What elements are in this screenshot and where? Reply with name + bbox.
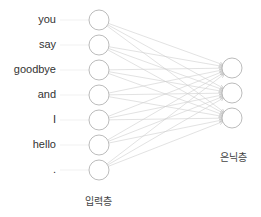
input-node — [89, 110, 109, 130]
connection-edge — [108, 73, 224, 140]
connection-edge — [109, 47, 222, 67]
input-node — [89, 85, 109, 105]
input-node — [89, 160, 109, 180]
word-guide-lines — [60, 20, 89, 170]
input-node — [89, 10, 109, 30]
input-node — [89, 135, 109, 155]
input-word-label: goodbye — [14, 63, 56, 75]
input-word-label: say — [39, 38, 56, 50]
connection-edge — [108, 23, 222, 64]
connection-edge — [108, 98, 224, 165]
connection-edge — [109, 70, 222, 93]
connection-edge — [108, 122, 222, 167]
hidden-node — [222, 108, 242, 128]
input-node — [89, 35, 109, 55]
hidden-node — [222, 83, 242, 103]
hidden-node — [222, 58, 242, 78]
input-layer-label: 입력층 — [85, 193, 112, 208]
input-word-label: and — [38, 88, 56, 100]
input-word-label: hello — [33, 138, 56, 150]
network-graph — [0, 0, 261, 217]
input-word-label: you — [38, 13, 56, 25]
hidden-layer-label: 은닉층 — [220, 149, 247, 164]
input-word-label: I — [53, 113, 56, 125]
input-word-label: . — [53, 163, 56, 175]
connection-edge — [108, 72, 222, 117]
input-node — [89, 60, 109, 80]
connection-edge — [107, 74, 224, 164]
connection-edge — [109, 68, 222, 70]
connection-edges — [107, 23, 224, 166]
